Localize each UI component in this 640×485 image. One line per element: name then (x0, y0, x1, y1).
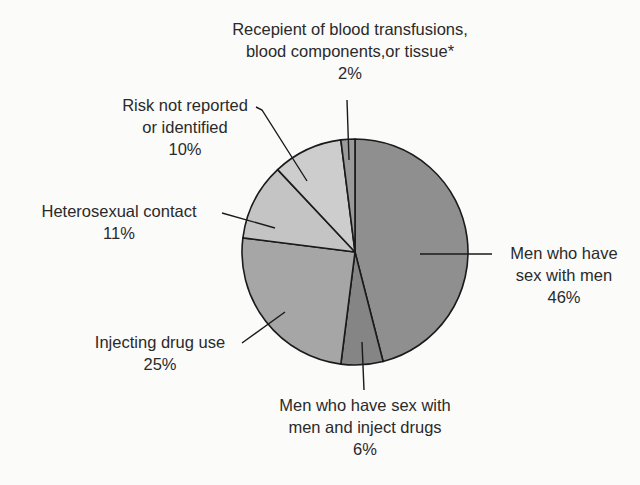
label-msm-idu-line2: men and inject drugs (270, 416, 460, 438)
label-msm-pct: 46% (494, 286, 634, 308)
label-risk-line2: or identified (100, 116, 270, 138)
label-msm-idu: Men who have sex with men and inject dru… (270, 394, 460, 460)
label-idu-line1: Injecting drug use (70, 331, 250, 353)
label-risk-pct: 10% (100, 138, 270, 160)
label-idu-pct: 25% (70, 353, 250, 375)
label-msm-idu-pct: 6% (270, 438, 460, 460)
label-msm-idu-line1: Men who have sex with (270, 394, 460, 416)
label-risk: Risk not reported or identified 10% (100, 94, 270, 160)
label-msm-line1: Men who have (494, 242, 634, 264)
slice-idu (242, 238, 355, 364)
label-blood-line1: Recepient of blood transfusions, (190, 18, 510, 40)
label-hetero-pct: 11% (14, 222, 224, 244)
pie-slices (242, 139, 468, 365)
label-msm-line2: sex with men (494, 264, 634, 286)
label-hetero: Heterosexual contact 11% (14, 200, 224, 244)
label-risk-line1: Risk not reported (100, 94, 270, 116)
label-blood-line2: blood components,or tissue* (190, 40, 510, 62)
label-hetero-line1: Heterosexual contact (14, 200, 224, 222)
label-blood: Recepient of blood transfusions, blood c… (190, 18, 510, 84)
label-blood-pct: 2% (190, 62, 510, 84)
label-idu: Injecting drug use 25% (70, 331, 250, 375)
label-msm: Men who have sex with men 46% (494, 242, 634, 308)
